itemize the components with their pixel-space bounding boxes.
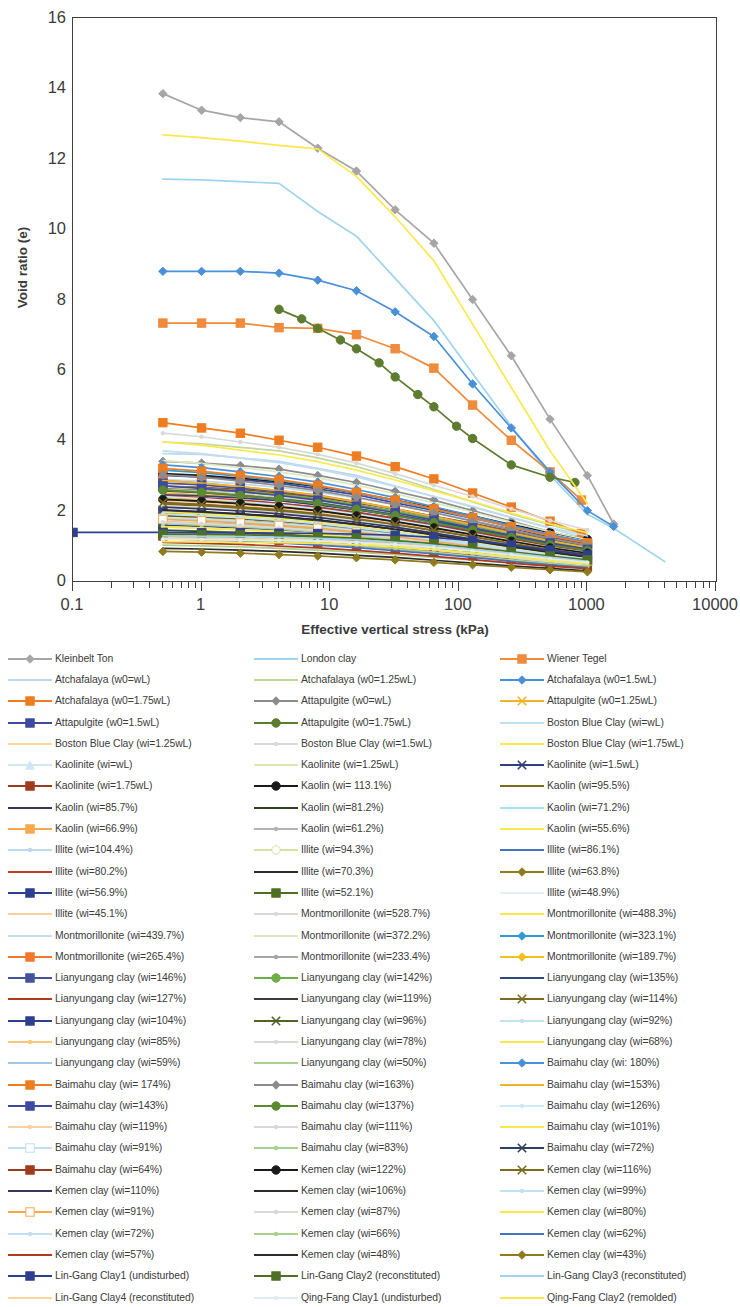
legend-item[interactable]: Kemen clay (wi=116%)	[500, 1159, 734, 1180]
legend-item[interactable]: Baimahu clay (wi=143%)	[8, 1095, 254, 1116]
legend-item[interactable]: London clay	[254, 648, 500, 669]
legend-item[interactable]: Atchafalaya (w0=wL)	[8, 669, 254, 690]
legend-item[interactable]: Qing-Fang Clay1 (undisturbed)	[254, 1287, 500, 1307]
legend-item[interactable]: Baimahu clay (wi=126%)	[500, 1095, 734, 1116]
legend-item[interactable]: Lin-Gang Clay4 (reconstituted)	[8, 1287, 254, 1307]
legend-item[interactable]: Baimahu clay (wi=153%)	[500, 1074, 734, 1095]
legend-item[interactable]: Baimahu clay (wi=72%)	[500, 1138, 734, 1159]
legend-item[interactable]: Wiener Tegel	[500, 648, 734, 669]
legend-item[interactable]: Baimahu clay (wi=119%)	[8, 1117, 254, 1138]
legend-item[interactable]: Kemen clay (wi=80%)	[500, 1202, 734, 1223]
legend-item[interactable]: Illite (wi=45.1%)	[8, 904, 254, 925]
legend-item[interactable]: Kemen clay (wi=110%)	[8, 1180, 254, 1201]
legend-item[interactable]: Kaolin (wi=95.5%)	[500, 776, 734, 797]
legend-item[interactable]: Baimahu clay (wi=101%)	[500, 1117, 734, 1138]
legend-item[interactable]: Kaolin (wi=66.9%)	[8, 818, 254, 839]
legend-item[interactable]: Baimahu clay (wi=137%)	[254, 1095, 500, 1116]
legend-item[interactable]: Lianyungang clay (wi=96%)	[254, 1010, 500, 1031]
legend-item[interactable]: Montmorillonite (wi=439.7%)	[8, 925, 254, 946]
legend-item[interactable]: Atchafalaya (w0=1.5wL)	[500, 669, 734, 690]
legend-item[interactable]: Baimahu clay (wi=83%)	[254, 1138, 500, 1159]
legend-item[interactable]: Montmorillonite (wi=233.4%)	[254, 946, 500, 967]
legend-item[interactable]: Attapulgite (w0=1.5wL)	[8, 712, 254, 733]
legend-item[interactable]: Attapulgite (w0=1.75wL)	[254, 712, 500, 733]
legend-item[interactable]: Montmorillonite (wi=372.2%)	[254, 925, 500, 946]
legend-item[interactable]: Lianyungang clay (wi=59%)	[8, 1053, 254, 1074]
legend-item[interactable]: Attapulgite (w0=wL)	[254, 691, 500, 712]
legend-item[interactable]: Kemen clay (wi=122%)	[254, 1159, 500, 1180]
y-tick-label: 2	[32, 500, 66, 519]
legend-item[interactable]: Kaolinite (wi=1.5wL)	[500, 754, 734, 775]
legend-item[interactable]: Kaolin (wi= 113.1%)	[254, 776, 500, 797]
legend-item[interactable]: Baimahu clay (wi=111%)	[254, 1117, 500, 1138]
legend-item[interactable]: Kemen clay (wi=57%)	[8, 1244, 254, 1265]
legend-item[interactable]: Lianyungang clay (wi=146%)	[8, 967, 254, 988]
legend-item[interactable]: Lianyungang clay (wi=68%)	[500, 1031, 734, 1052]
legend-item[interactable]: Kemen clay (wi=48%)	[254, 1244, 500, 1265]
legend-item[interactable]: Boston Blue Clay (wi=1.25wL)	[8, 733, 254, 754]
legend-item[interactable]: Kaolinite (wi=1.75wL)	[8, 776, 254, 797]
legend-item[interactable]: Boston Blue Clay (wi=1.75wL)	[500, 733, 734, 754]
legend-item[interactable]: Baimahu clay (wi=163%)	[254, 1074, 500, 1095]
legend-item-label: Atchafalaya (w0=1.5wL)	[547, 674, 656, 686]
legend-item[interactable]: Kemen clay (wi=43%)	[500, 1244, 734, 1265]
legend-item[interactable]: Lianyungang clay (wi=104%)	[8, 1010, 254, 1031]
legend-item[interactable]: Kemen clay (wi=106%)	[254, 1180, 500, 1201]
legend-item[interactable]: Illite (wi=52.1%)	[254, 882, 500, 903]
legend-item[interactable]: Kemen clay (wi=99%)	[500, 1180, 734, 1201]
legend-item[interactable]: Baimahu clay (wi: 180%)	[500, 1053, 734, 1074]
legend-item[interactable]: Atchafalaya (w0=1.75wL)	[8, 691, 254, 712]
legend-item[interactable]: Illite (wi=86.1%)	[500, 840, 734, 861]
legend-item[interactable]: Kaolinite (wi=1.25wL)	[254, 754, 500, 775]
legend-item[interactable]: Illite (wi=63.8%)	[500, 861, 734, 882]
legend-item[interactable]: Kaolin (wi=61.2%)	[254, 818, 500, 839]
legend-item[interactable]: Montmorillonite (wi=528.7%)	[254, 904, 500, 925]
legend-item-label: Lin-Gang Clay3 (reconstituted)	[547, 1270, 686, 1282]
legend-item[interactable]: Kaolin (wi=85.7%)	[8, 797, 254, 818]
legend-item[interactable]: Kaolinite (wi=wL)	[8, 754, 254, 775]
legend-item[interactable]: Baimahu clay (wi=91%)	[8, 1138, 254, 1159]
legend-item[interactable]: Montmorillonite (wi=265.4%)	[8, 946, 254, 967]
legend-item[interactable]: Lianyungang clay (wi=114%)	[500, 989, 734, 1010]
legend-item[interactable]: Lin-Gang Clay2 (reconstituted)	[254, 1266, 500, 1287]
legend-item[interactable]: Montmorillonite (wi=488.3%)	[500, 904, 734, 925]
legend-item[interactable]: Baimahu clay (wi=64%)	[8, 1159, 254, 1180]
legend-item[interactable]: Illite (wi=104.4%)	[8, 840, 254, 861]
legend-item[interactable]: Lianyungang clay (wi=135%)	[500, 967, 734, 988]
legend-item[interactable]: Illite (wi=94.3%)	[254, 840, 500, 861]
legend-item[interactable]: Montmorillonite (wi=189.7%)	[500, 946, 734, 967]
legend-item[interactable]: Lianyungang clay (wi=92%)	[500, 1010, 734, 1031]
legend-item[interactable]: Lianyungang clay (wi=142%)	[254, 967, 500, 988]
legend-item[interactable]: Kaolin (wi=81.2%)	[254, 797, 500, 818]
legend-item[interactable]: Lin-Gang Clay3 (reconstituted)	[500, 1266, 734, 1287]
x-tick-mark-minor	[535, 582, 536, 588]
legend-item[interactable]: Attapulgite (w0=1.25wL)	[500, 691, 734, 712]
legend-item[interactable]: Boston Blue Clay (wi=wL)	[500, 712, 734, 733]
legend-item[interactable]: Illite (wi=70.3%)	[254, 861, 500, 882]
legend-item[interactable]: Lianyungang clay (wi=85%)	[8, 1031, 254, 1052]
legend-item[interactable]: Kaolin (wi=71.2%)	[500, 797, 734, 818]
legend-item[interactable]: Montmorillonite (wi=323.1%)	[500, 925, 734, 946]
legend-item[interactable]: Lianyungang clay (wi=78%)	[254, 1031, 500, 1052]
legend-item[interactable]: Lianyungang clay (wi=119%)	[254, 989, 500, 1010]
legend-item[interactable]: Kleinbelt Ton	[8, 648, 254, 669]
legend-item-label: Kemen clay (wi=99%)	[547, 1185, 646, 1197]
legend-item[interactable]: Kaolin (wi=55.6%)	[500, 818, 734, 839]
legend-item[interactable]: Kemen clay (wi=66%)	[254, 1223, 500, 1244]
legend-item[interactable]: Illite (wi=80.2%)	[8, 861, 254, 882]
legend-item[interactable]: Illite (wi=56.9%)	[8, 882, 254, 903]
legend-item[interactable]: Kemen clay (wi=72%)	[8, 1223, 254, 1244]
x-tick-mark-minor	[407, 582, 408, 588]
legend-item[interactable]: Lianyungang clay (wi=127%)	[8, 989, 254, 1010]
legend-item[interactable]: Illite (wi=48.9%)	[500, 882, 734, 903]
legend-item[interactable]: Boston Blue Clay (wi=1.5wL)	[254, 733, 500, 754]
legend-item[interactable]: Kemen clay (wi=62%)	[500, 1223, 734, 1244]
legend-item[interactable]: Qing-Fang Clay2 (remolded)	[500, 1287, 734, 1307]
legend-item[interactable]: Baimahu clay (wi= 174%)	[8, 1074, 254, 1095]
legend-item[interactable]: Atchafalaya (w0=1.25wL)	[254, 669, 500, 690]
legend-item[interactable]: Kemen clay (wi=91%)	[8, 1202, 254, 1223]
legend-item[interactable]: Lin-Gang Clay1 (undisturbed)	[8, 1266, 254, 1287]
chart-legend: Kleinbelt TonLondon clayWiener TegelAtch…	[8, 648, 734, 1294]
legend-item[interactable]: Kemen clay (wi=87%)	[254, 1202, 500, 1223]
legend-item[interactable]: Lianyungang clay (wi=50%)	[254, 1053, 500, 1074]
